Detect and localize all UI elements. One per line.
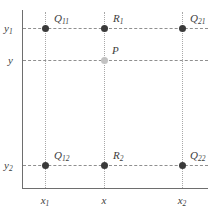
- x-tick-label-x2-sub: 2: [183, 199, 187, 208]
- x-axis-line: [22, 188, 208, 189]
- point-P: [101, 57, 108, 64]
- point-label-Q11: Q11: [54, 13, 69, 24]
- y-tick-label-y1-sub: 1: [9, 27, 13, 36]
- point-label-Q21-sub: 21: [198, 17, 206, 26]
- point-label-Q22: Q22: [190, 150, 205, 161]
- x-tick-label-x2: x2: [178, 195, 187, 206]
- y-tick-label-y: y: [8, 55, 13, 66]
- point-label-P: P: [112, 45, 119, 56]
- gridline-horizontal-y: [23, 60, 208, 61]
- y-tick-label-y2-sub: 2: [9, 164, 13, 173]
- x-tick-label-x1-sub: 1: [46, 199, 50, 208]
- point-label-R1: R1: [113, 13, 123, 24]
- point-label-Q22-sub: 22: [198, 154, 206, 163]
- point-label-R2-sub: 2: [120, 154, 124, 163]
- point-label-Q12-base: Q: [54, 149, 62, 161]
- point-label-Q21: Q21: [190, 13, 205, 24]
- y-tick-label-y1: y1: [4, 23, 13, 34]
- point-label-R1-sub: 1: [120, 17, 124, 26]
- point-R1: [101, 25, 108, 32]
- point-label-R2-base: R: [113, 149, 120, 161]
- point-Q21: [179, 25, 186, 32]
- y-axis-line: [22, 10, 23, 189]
- point-R2: [101, 162, 108, 169]
- point-label-R2: R2: [113, 150, 123, 161]
- point-Q22: [179, 162, 186, 169]
- point-label-P-base: P: [112, 44, 119, 56]
- x-tick-label-x: x: [102, 195, 107, 206]
- point-label-Q12-sub: 12: [62, 154, 70, 163]
- point-label-Q11-sub: 11: [62, 17, 69, 26]
- y-tick-label-y-base: y: [8, 54, 13, 66]
- x-tick-label-x1: x1: [41, 195, 50, 206]
- point-label-Q11-base: Q: [54, 12, 62, 24]
- x-tick-label-x-base: x: [102, 194, 107, 206]
- point-Q12: [42, 162, 49, 169]
- bilinear-interpolation-figure: Q11 R1 Q21 P Q12 R2 Q22 y1 y y2 x1 x x2: [0, 0, 214, 217]
- point-label-R1-base: R: [113, 12, 120, 24]
- y-tick-label-y2: y2: [4, 160, 13, 171]
- point-label-Q22-base: Q: [190, 149, 198, 161]
- point-label-Q21-base: Q: [190, 12, 198, 24]
- point-label-Q12: Q12: [54, 150, 69, 161]
- point-Q11: [42, 25, 49, 32]
